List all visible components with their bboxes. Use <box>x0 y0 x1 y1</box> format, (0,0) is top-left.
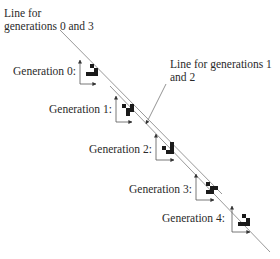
pointer-arrow <box>146 84 166 124</box>
generation-1-glider <box>116 96 134 122</box>
glider-diagram <box>0 0 280 259</box>
generation-2-glider <box>156 134 174 160</box>
generation-0-glider <box>80 60 98 84</box>
trajectory-line-0-3 <box>60 30 222 194</box>
